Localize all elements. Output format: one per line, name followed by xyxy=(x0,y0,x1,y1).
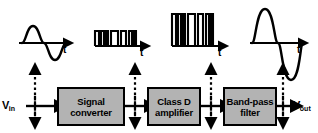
waveform-4-axis-label: t xyxy=(297,45,300,55)
output-port-subscript: out xyxy=(300,105,311,112)
block-band-pass-filter-label: Band-pass filter xyxy=(227,96,274,118)
block-band-pass-filter[interactable]: Band-pass filter xyxy=(223,87,277,126)
waveform-2-axis-label: t xyxy=(140,48,143,58)
output-port-label: Vout xyxy=(293,100,311,112)
block-signal-converter[interactable]: Signal converter xyxy=(57,87,125,126)
waveform-output-sine xyxy=(250,9,303,80)
waveform-3-axis-label: t xyxy=(218,48,221,58)
waveform-pwm-high xyxy=(172,14,220,46)
waveform-input-sine xyxy=(19,26,66,60)
waveform-2-pwm-pulses xyxy=(95,31,136,46)
waveform-3-pwm-pulses xyxy=(172,14,213,46)
block-signal-converter-label: Signal converter xyxy=(70,96,112,118)
block-diagram-figure: t t t t Vin Vout Signal converter Class … xyxy=(0,0,318,133)
input-port-subscript: in xyxy=(9,105,15,112)
block-class-d-amplifier[interactable]: Class D amplifier xyxy=(147,87,201,126)
waveform-pwm-low xyxy=(95,31,142,46)
block-class-d-amplifier-label: Class D amplifier xyxy=(155,96,193,118)
waveform-1-axis-label: t xyxy=(63,45,66,55)
waveform-4-sine-curve xyxy=(252,9,303,80)
input-port-label: Vin xyxy=(2,100,16,112)
